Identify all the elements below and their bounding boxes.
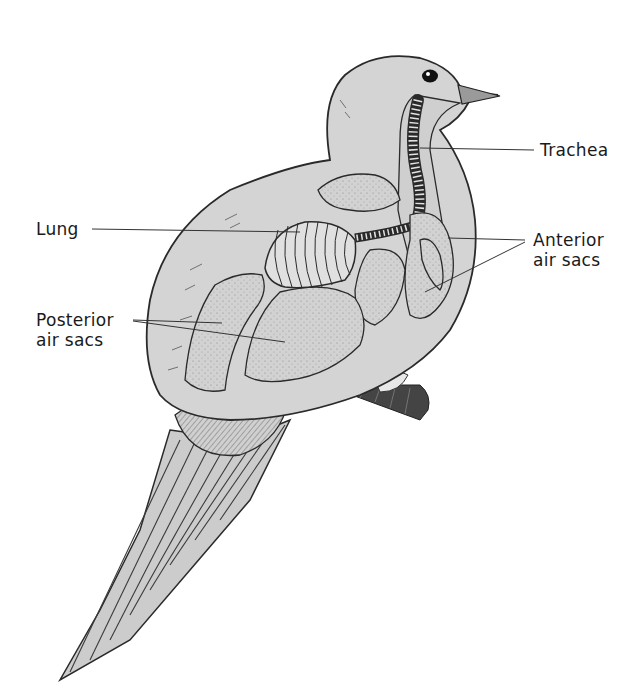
lung-label-text: Lung (36, 219, 79, 239)
posterior-label-line1: Posterior (36, 310, 114, 330)
label-trachea: Trachea (540, 140, 608, 160)
label-lung: Lung (36, 219, 79, 239)
label-posterior-air-sacs: Posterior air sacs (36, 310, 114, 350)
trachea-label-text: Trachea (540, 140, 608, 160)
label-anterior-air-sacs: Anterior air sacs (533, 230, 604, 270)
eye (422, 70, 438, 83)
anterior-label-line1: Anterior (533, 230, 604, 250)
posterior-label-line2: air sacs (36, 330, 114, 350)
anterior-label-line2: air sacs (533, 250, 604, 270)
tail (60, 388, 290, 680)
beak (458, 85, 500, 104)
